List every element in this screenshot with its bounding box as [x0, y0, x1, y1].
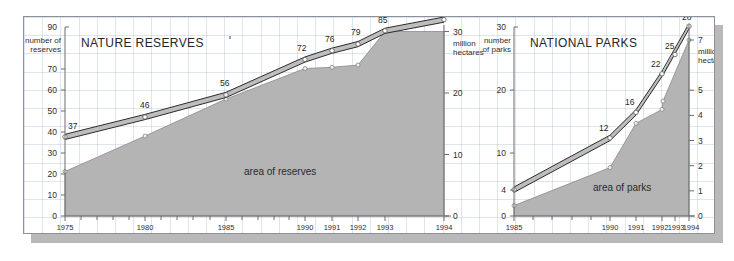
parks-x-label-1985: 1985: [506, 223, 523, 232]
x-tick-label-1980: 1980: [137, 223, 154, 232]
parks-x-label-1990: 1990: [602, 223, 619, 232]
y-tick-label-70: 70: [48, 64, 58, 74]
parks-y2-label-7: 7: [698, 35, 703, 45]
parks-y-tick-label-0: 0: [501, 211, 506, 221]
parks-data-label-22: 22: [651, 59, 661, 69]
data-label-37: 37: [68, 121, 78, 131]
parks-y2-label-1: 1: [698, 186, 703, 196]
right-y-axis-caption-line2: of parks: [483, 45, 511, 54]
y2-tick-label-30: 30: [453, 27, 463, 37]
parks-data-label-12: 12: [599, 123, 609, 133]
data-label-79: 79: [351, 27, 361, 37]
y-tick-label-90: 90: [48, 22, 58, 32]
left-y-axis-caption-line2: reserves: [30, 45, 61, 54]
data-label-46: 46: [140, 100, 150, 110]
figure-canvas: 90 70 60 50 40 30 20 10 0 number of rese…: [0, 0, 734, 261]
left-y-axis-caption-line1: number of: [25, 36, 62, 45]
parks-y2-label-5: 5: [698, 85, 703, 95]
left-x-ticks: [65, 216, 444, 221]
parks-x-label-1994: 1994: [683, 223, 700, 232]
parks-y-tick-label-20: 20: [497, 85, 507, 95]
parks-data-label-16: 16: [625, 97, 635, 107]
y-tick-label-30: 30: [48, 148, 58, 158]
parks-y2-label-2: 2: [698, 161, 703, 171]
y2-tick-label-20: 20: [453, 88, 463, 98]
x-tick-label-1990: 1990: [297, 223, 314, 232]
y-tick-label-40: 40: [48, 127, 58, 137]
parks-y-tick-label-30: 30: [497, 22, 507, 32]
national-parks-svg: 30 20 10 0 4 number of parks 7 5 4 3: [479, 17, 715, 234]
figure-frame: 90 70 60 50 40 30 20 10 0 number of rese…: [23, 16, 715, 234]
scan-speck-artifact: [229, 36, 231, 39]
parks-y2-label-3: 3: [698, 136, 703, 146]
x-tick-label-1975: 1975: [57, 223, 74, 232]
data-label-56: 56: [220, 78, 230, 88]
parks-x-label-1991: 1991: [628, 223, 645, 232]
area-of-parks-annotation: area of parks: [593, 182, 651, 193]
data-label-76: 76: [325, 34, 335, 44]
chart-nature-reserves: 90 70 60 50 40 30 20 10 0 number of rese…: [24, 17, 479, 234]
national-parks-title: NATIONAL PARKS: [530, 36, 637, 50]
x-tick-label-1992: 1992: [350, 223, 367, 232]
parks-x-label-1992: 1992: [652, 223, 669, 232]
parks-y-tick-label-10: 10: [497, 148, 507, 158]
data-label-85: 85: [378, 16, 388, 25]
x-tick-label-1985: 1985: [218, 223, 235, 232]
y2-tick-label-10: 10: [453, 150, 463, 160]
right-y-axis-caption-line1: number: [484, 36, 511, 45]
y-tick-label-0: 0: [52, 211, 57, 221]
y2-tick-label-0: 0: [453, 211, 458, 221]
right-x-ticks: [514, 216, 689, 221]
parks-data-label-25: 25: [665, 41, 675, 51]
right-y2-caption-line1: million: [698, 47, 715, 56]
y-tick-label-10: 10: [48, 190, 58, 200]
x-tick-label-1991: 1991: [324, 223, 341, 232]
chart-national-parks: 30 20 10 0 4 number of parks 7 5 4 3: [479, 17, 715, 234]
x-tick-label-1994: 1994: [436, 223, 453, 232]
x-tick-label-1993: 1993: [377, 223, 394, 232]
y-tick-label-20: 20: [48, 169, 58, 179]
parks-y2-label-4: 4: [698, 110, 703, 120]
area-of-reserves-annotation: area of reserves: [244, 166, 316, 177]
parks-data-label-28: 28: [682, 16, 692, 22]
y-tick-label-60: 60: [48, 85, 58, 95]
parks-y2-label-0: 0: [698, 211, 703, 221]
data-label-72: 72: [297, 43, 307, 53]
nature-reserves-svg: 90 70 60 50 40 30 20 10 0 number of rese…: [24, 17, 479, 234]
left-y2-caption-line1: million: [453, 39, 476, 48]
y-tick-label-50: 50: [48, 106, 58, 116]
right-y2-caption-line2: hectares: [698, 56, 715, 65]
nature-reserves-title: NATURE RESERVES: [81, 36, 204, 50]
parks-data-label-4: 4: [501, 185, 506, 195]
